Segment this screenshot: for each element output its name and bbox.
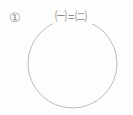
item-number-label: ①: [9, 11, 21, 24]
relation-expression: ㈠ = ㈡: [54, 10, 88, 24]
circled-nieun-label: ㈡: [75, 10, 87, 24]
figure-root: ① ㈠ = ㈡: [0, 0, 133, 115]
equals-operator: =: [67, 10, 75, 24]
circled-giyeok-label: ㈠: [55, 10, 67, 24]
